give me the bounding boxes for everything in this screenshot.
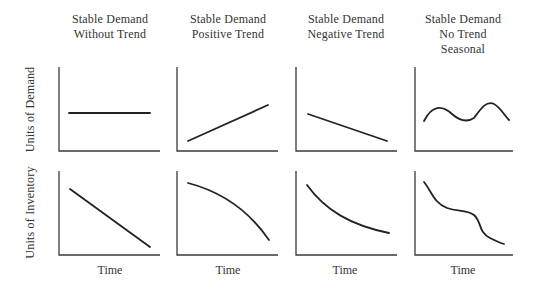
- curve-inventory-accelerating: [188, 183, 269, 240]
- axes: [59, 67, 513, 255]
- curve-demand-increasing: [188, 105, 268, 141]
- axes-demand-4: [415, 67, 513, 151]
- curve-demand-seasonal: [424, 103, 509, 121]
- plot-grid: [0, 0, 533, 292]
- x-label-time-3: Time: [315, 263, 375, 278]
- axes-inventory-3: [296, 171, 397, 255]
- curve-inventory-linear: [70, 189, 150, 247]
- curve-inventory-decelerating: [307, 185, 389, 233]
- axes-demand-1: [59, 67, 160, 151]
- x-label-time-1: Time: [80, 263, 140, 278]
- curve-inventory-seasonal: [424, 182, 504, 244]
- curves: [69, 103, 509, 247]
- x-label-time-4: Time: [433, 263, 493, 278]
- curve-demand-decreasing: [308, 114, 387, 141]
- x-label-time-2: Time: [198, 263, 258, 278]
